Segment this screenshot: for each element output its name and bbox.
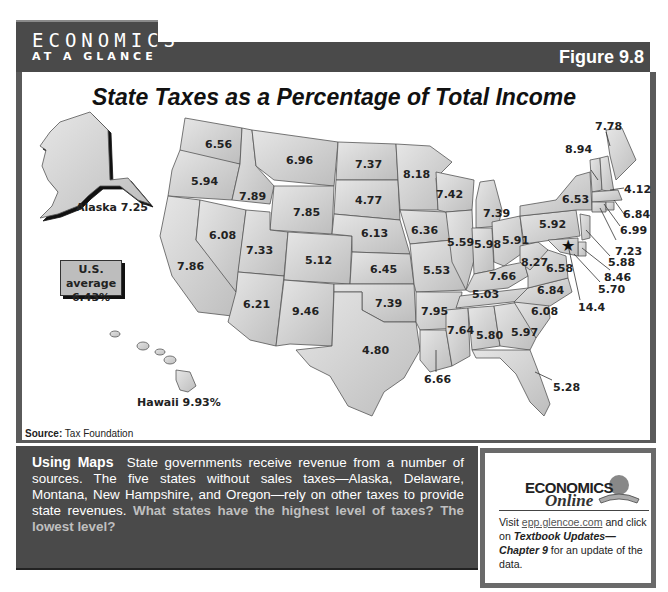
label-ky: 7.66 (489, 270, 516, 283)
label-az: 6.21 (243, 298, 270, 311)
label-me: 7.78 (595, 120, 622, 133)
label-ms: 7.64 (447, 324, 474, 337)
logo-rule (499, 510, 649, 511)
label-id: 7.89 (239, 190, 266, 203)
label-la: 6.66 (424, 373, 451, 386)
caption-box: Using Maps State governments receive rev… (16, 446, 478, 570)
state-connecticut (592, 202, 606, 212)
label-hawaii: Hawaii 9.93% (137, 396, 221, 409)
glencoe-link[interactable]: epp.glencoe.com (522, 516, 603, 528)
us-average-box: U.S. average 6.43% (60, 260, 122, 296)
label-mi: 7.39 (483, 207, 510, 220)
label-nh: 4.12 (624, 183, 651, 196)
label-or: 5.94 (191, 175, 218, 188)
label-sc: 6.08 (531, 305, 558, 318)
label-wv: 8.27 (521, 256, 548, 269)
economics-online-box: ECONOMICS Online Visit epp.glencoe.com a… (480, 448, 656, 588)
label-ks: 6.45 (370, 263, 397, 276)
us-average-label: U.S. average (61, 263, 121, 291)
label-wa: 6.56 (205, 138, 232, 151)
label-il: 5.59 (447, 236, 474, 249)
state-new-jersey (580, 214, 590, 240)
online-text: Visit epp.glencoe.com and click on Textb… (499, 515, 649, 571)
label-sd: 4.77 (355, 194, 382, 207)
label-ia: 6.36 (411, 224, 438, 237)
label-nv: 6.08 (209, 229, 236, 242)
state-massachusetts (592, 190, 622, 202)
label-alaska: Alaska 7.25 (76, 201, 148, 214)
state-delaware (578, 242, 586, 256)
label-dc: 14.4 (578, 301, 605, 314)
label-tx: 4.80 (362, 344, 389, 357)
logo-online: Online (545, 491, 593, 511)
label-ga: 5.97 (511, 326, 538, 339)
label-mo: 5.53 (423, 264, 450, 277)
label-mn: 8.18 (403, 168, 430, 181)
us-average-value: 6.43% (61, 291, 121, 305)
label-nj: 5.88 (608, 256, 635, 269)
label-in: 5.98 (474, 238, 501, 251)
label-fl: 5.28 (553, 381, 580, 394)
source-label: Source: (25, 428, 62, 439)
label-oh: 5.91 (502, 234, 529, 247)
label-ut: 7.33 (246, 244, 273, 257)
label-wi: 7.42 (436, 188, 463, 201)
label-ok: 7.39 (375, 297, 402, 310)
label-nc: 6.84 (537, 284, 564, 297)
state-indiana (472, 228, 494, 274)
label-ri: 6.99 (620, 224, 647, 237)
source-note: Source: Tax Foundation (25, 428, 133, 439)
state-florida (472, 350, 550, 416)
label-md: 5.70 (598, 283, 625, 296)
label-ny: 6.53 (562, 193, 589, 206)
dc-star-icon: ★ (561, 236, 575, 255)
label-nd: 7.37 (355, 158, 382, 171)
source-value: Tax Foundation (65, 428, 133, 439)
label-mt: 6.96 (286, 154, 313, 167)
label-co: 5.12 (305, 254, 332, 267)
label-wy: 7.85 (293, 206, 320, 219)
label-ca: 7.86 (177, 260, 204, 273)
label-ma: 6.84 (623, 208, 650, 221)
label-pa: 5.92 (539, 218, 566, 231)
caption-heading: Using Maps (32, 454, 113, 470)
label-al: 5.80 (476, 329, 503, 342)
label-ne: 6.13 (361, 227, 388, 240)
label-va: 6.58 (546, 262, 573, 275)
label-ar: 7.95 (421, 305, 448, 318)
label-vt: 8.94 (565, 143, 592, 156)
label-tn: 5.03 (472, 288, 499, 301)
label-nm: 9.46 (292, 305, 319, 318)
